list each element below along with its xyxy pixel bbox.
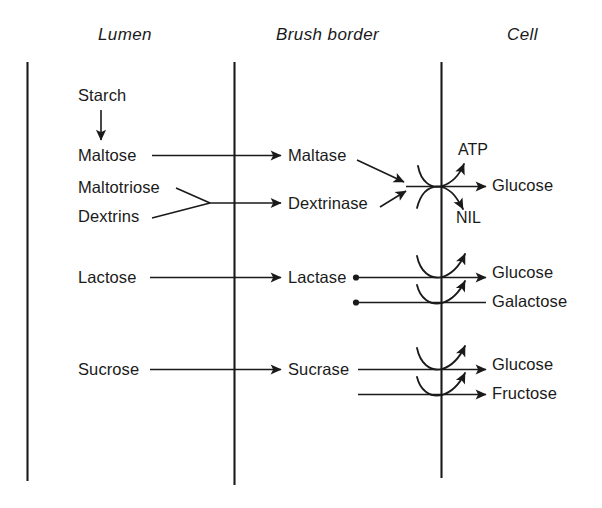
label-glucose-1: Glucose [492, 176, 553, 194]
label-dextrinase: Dextrinase [288, 194, 368, 212]
label-galactose: Galactose [492, 292, 567, 310]
label-sucrase: Sucrase [288, 360, 349, 378]
label-sucrose: Sucrose [78, 360, 139, 378]
label-glucose-3: Glucose [492, 355, 553, 373]
label-glucose-2: Glucose [492, 263, 553, 281]
label-dextrins: Dextrins [78, 207, 139, 225]
carbohydrate-digestion-diagram: Lumen Brush border Cell Starch Maltose M… [0, 0, 602, 508]
label-maltose: Maltose [78, 146, 136, 164]
label-atp: ATP [458, 141, 488, 158]
header-lumen: Lumen [98, 25, 152, 44]
label-starch: Starch [78, 86, 126, 104]
label-lactose: Lactose [78, 268, 137, 286]
label-nil: NIL [456, 209, 481, 226]
label-lactase: Lactase [288, 268, 347, 286]
header-brush-border: Brush border [276, 25, 380, 44]
arrow-maltotriose-dextrins-to-dextrinase [152, 188, 281, 218]
transport-line-galactose [353, 299, 486, 305]
arrow-maltase-to-transporter [357, 160, 404, 182]
transport-line-glucose-2 [353, 274, 486, 280]
label-fructose: Fructose [492, 384, 557, 402]
label-maltotriose: Maltotriose [78, 178, 160, 196]
header-cell: Cell [507, 25, 539, 44]
diagram-page: Lumen Brush border Cell Starch Maltose M… [0, 0, 602, 508]
curved-arrow-nil [417, 187, 463, 209]
arrow-dextrinase-to-transporter [380, 191, 406, 207]
label-maltase: Maltase [288, 146, 346, 164]
